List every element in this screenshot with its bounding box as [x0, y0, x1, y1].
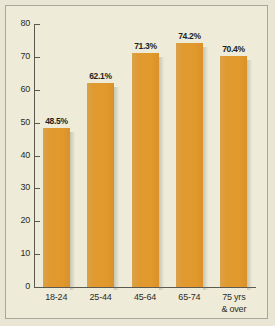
y-axis-tick-label: 40: [0, 150, 30, 160]
bar-value-label: 62.1%: [77, 71, 124, 81]
x-axis-label: 75 yrs& over: [212, 291, 256, 315]
bar: [220, 56, 247, 287]
x-axis-label: 45-64: [123, 291, 167, 303]
y-axis-tick-label: 30: [0, 182, 30, 192]
y-axis-tick-label: 70: [0, 51, 30, 61]
bar: [132, 53, 159, 287]
y-axis-tick: [35, 24, 40, 25]
y-axis-tick-label: 0: [0, 281, 30, 291]
chart-page: 01020304050607080 48.5%62.1%71.3%74.2%70…: [0, 0, 275, 326]
x-axis-label: 25-44: [78, 291, 122, 303]
bar-value-label: 70.4%: [210, 44, 257, 54]
y-axis-tick: [35, 287, 40, 288]
x-axis-label: 18-24: [34, 291, 78, 303]
bar: [176, 43, 203, 287]
y-axis-tick-label: 50: [0, 117, 30, 127]
y-axis-tick-label: 80: [0, 18, 30, 28]
y-axis-tick: [35, 156, 40, 157]
x-axis-label: 65-74: [167, 291, 211, 303]
bar-value-label: 71.3%: [122, 41, 169, 51]
y-axis-tick: [35, 254, 40, 255]
y-axis-tick-label: 10: [0, 248, 30, 258]
x-axis-label-line: 45-64: [123, 291, 167, 303]
bar: [43, 128, 70, 287]
x-axis-label-line: 18-24: [34, 291, 78, 303]
y-axis-tick-label: 60: [0, 84, 30, 94]
x-axis-label-line: 65-74: [167, 291, 211, 303]
y-axis-tick: [35, 221, 40, 222]
x-axis-line: [34, 287, 256, 288]
y-axis-tick: [35, 57, 40, 58]
bar-value-label: 74.2%: [166, 31, 213, 41]
x-axis-label-line: & over: [212, 303, 256, 315]
y-axis-tick: [35, 90, 40, 91]
x-axis-label-line: 25-44: [78, 291, 122, 303]
bar: [87, 83, 114, 287]
y-axis-tick-label: 20: [0, 215, 30, 225]
y-axis-tick: [35, 188, 40, 189]
x-axis-label-line: 75 yrs: [212, 291, 256, 303]
bar-value-label: 48.5%: [33, 116, 80, 126]
